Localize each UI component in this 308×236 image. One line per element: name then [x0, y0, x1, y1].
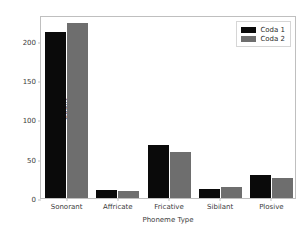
x-tick-mark [271, 198, 272, 201]
x-tick-label: Sonorant [51, 203, 83, 211]
legend-item-coda-1: Coda 1 [241, 25, 285, 34]
y-tick-mark [38, 200, 41, 201]
y-tick-mark [38, 82, 41, 83]
x-tick-label: Plosive [259, 203, 284, 211]
y-tick-mark [38, 42, 41, 43]
bar [45, 32, 66, 199]
y-tick-mark [38, 160, 41, 161]
x-tick-mark [117, 198, 118, 201]
bar [199, 189, 220, 198]
legend-label-coda-1: Coda 1 [260, 26, 285, 34]
x-axis-title: Phoneme Type [40, 216, 296, 224]
x-tick-label: Affricate [103, 203, 133, 211]
x-tick-mark [220, 198, 221, 201]
bar [148, 145, 169, 198]
x-tick-mark [66, 198, 67, 201]
bar [221, 187, 242, 198]
bar [118, 191, 139, 198]
y-tick-mark [38, 121, 41, 122]
bar [170, 152, 191, 198]
bar-chart-figure: Count 050100150200 SonorantAffricateFric… [0, 0, 308, 236]
legend-swatch-coda-1 [241, 27, 256, 33]
x-tick-mark [169, 198, 170, 201]
x-tick-label: Sibilant [207, 203, 233, 211]
plot-area: Count 050100150200 SonorantAffricateFric… [40, 16, 296, 199]
legend-item-coda-2: Coda 2 [241, 34, 285, 43]
x-tick-label: Fricative [154, 203, 184, 211]
bar [250, 175, 271, 198]
bar [96, 190, 117, 198]
legend-label-coda-2: Coda 2 [260, 35, 285, 43]
bar [67, 23, 88, 198]
chart-legend: Coda 1 Coda 2 [236, 21, 291, 47]
bar [272, 178, 293, 198]
legend-swatch-coda-2 [241, 36, 256, 42]
